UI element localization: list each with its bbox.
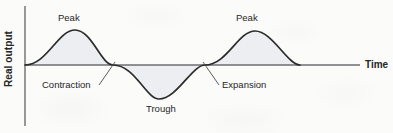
contraction-label: Contraction [42,80,91,90]
business-cycle-figure: Real output Time Peak Peak Trough Contra… [0,0,393,133]
peak-label-first: Peak [58,13,80,23]
expansion-label: Expansion [222,80,266,90]
trough-label: Trough [146,104,176,114]
x-axis-title: Time [365,60,388,70]
peak-label-second: Peak [236,13,258,23]
y-axis-title: Real output [4,31,14,87]
